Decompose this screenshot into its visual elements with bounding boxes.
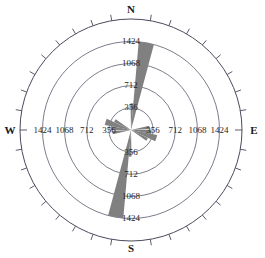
radial-label-e-356: 356: [146, 125, 160, 135]
radial-label-w-356: 356: [102, 125, 116, 135]
cardinal-label-east: E: [250, 124, 257, 136]
radial-label-s-1068: 1068: [122, 191, 141, 201]
radial-tick-labels-east: 356 712 1068 1424: [146, 125, 229, 135]
radial-label-e-1068: 1068: [188, 125, 207, 135]
radial-label-e-1424: 1424: [211, 125, 230, 135]
cardinal-label-north: N: [127, 3, 135, 15]
radial-label-e-712: 712: [169, 125, 183, 135]
radial-label-n-712: 712: [124, 80, 138, 90]
cardinal-label-west: W: [5, 124, 16, 136]
rose-diagram: 1424 1068 712 356 356 712 1068 1424 1424…: [0, 0, 265, 258]
radial-label-n-1068: 1068: [122, 58, 141, 68]
radial-label-w-712: 712: [80, 125, 94, 135]
radial-label-w-1424: 1424: [34, 125, 53, 135]
radial-label-n-1424: 1424: [122, 36, 141, 46]
radial-label-s-1424: 1424: [122, 213, 141, 223]
radial-label-s-712: 712: [124, 169, 138, 179]
radial-label-n-356: 356: [124, 102, 138, 112]
radial-label-w-1068: 1068: [56, 125, 75, 135]
radial-label-s-356: 356: [124, 147, 138, 157]
cardinal-label-south: S: [128, 242, 134, 254]
